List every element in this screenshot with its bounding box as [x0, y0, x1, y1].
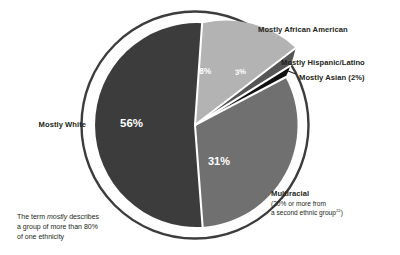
caption-emphasis-mostly: mostly — [47, 213, 67, 220]
multiracial-sub-line2: a second ethnic group — [271, 209, 336, 216]
slice-value-mostly-white: 56% — [120, 117, 143, 129]
caption-line2: a group of more than 80% — [17, 223, 98, 230]
slice-value-mostly-african-american: 8% — [199, 66, 211, 76]
pie-slice-mostly-white[interactable] — [95, 23, 203, 227]
label-mostly-asian[interactable]: Mostly Asian (2%) — [299, 73, 365, 83]
multiracial-sub-line1: (20% or more from — [271, 200, 326, 207]
caption-line1: The term mostly describes — [17, 213, 99, 220]
caption-line1-a: The term — [17, 213, 47, 220]
caption-line1-b: describes — [67, 213, 99, 220]
caption-line3: of one ethnicity — [17, 233, 64, 240]
slice-value-multiracial: 31% — [208, 155, 230, 167]
label-multiracial[interactable]: Multiracial — [271, 189, 309, 199]
slice-value-mostly-hispanic-latino: 3% — [235, 67, 247, 77]
label-multiracial-sub: (20% or more from a second ethnic group2… — [271, 200, 343, 218]
footnote-caption: The term mostly describes a group of mor… — [17, 212, 99, 243]
multiracial-sub-close: ) — [341, 209, 343, 216]
label-mostly-african-american[interactable]: Mostly African American — [258, 25, 348, 35]
label-mostly-white[interactable]: Mostly White — [14, 120, 86, 130]
label-mostly-hispanic-latino[interactable]: Mostly Hispanic/Latino — [281, 58, 365, 68]
